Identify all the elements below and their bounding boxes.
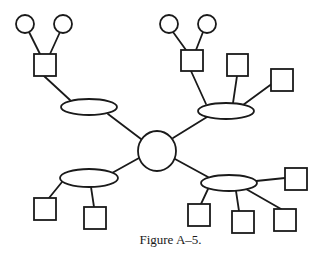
edge-hub-bottom-left-ellipse (112, 158, 139, 173)
tr-circle-2 (198, 15, 216, 33)
br-square-1 (188, 204, 210, 226)
edge-top-right-ellipse-tr-square-3 (243, 83, 273, 105)
edge-top-right-ellipse-tr-square-2 (233, 76, 237, 103)
edge-hub-bottom-right-ellipse (175, 159, 208, 177)
br-square-2 (232, 211, 254, 233)
tr-square-1 (181, 50, 203, 71)
edge-bottom-right-ellipse-br-square-4 (256, 178, 285, 181)
tl-circle-1 (16, 15, 34, 33)
edge-tr-square-1-tr-circle-1 (173, 32, 186, 50)
tr-circle-1 (160, 15, 178, 33)
bl-square-1 (34, 198, 56, 220)
edge-bottom-right-ellipse-br-square-1 (201, 189, 208, 204)
edge-tl-square-tl-circle-1 (29, 32, 40, 54)
tl-circle-2 (54, 15, 72, 33)
edge-bottom-right-ellipse-br-square-2 (236, 191, 239, 211)
hub-node (138, 131, 176, 171)
edge-tr-square-1-tr-circle-2 (196, 32, 203, 50)
br-square-3 (274, 209, 296, 231)
edge-tl-square-tl-circle-2 (50, 32, 60, 54)
tl-square (34, 54, 56, 76)
top-right-ellipse (198, 103, 254, 119)
edge-hub-top-left-ellipse (108, 114, 141, 139)
edge-top-right-ellipse-tr-square-1 (191, 71, 206, 104)
figure-caption: Figure A–5. (0, 232, 327, 248)
top-left-ellipse (61, 99, 117, 115)
bottom-right-ellipse (201, 175, 257, 191)
tr-square-3 (271, 69, 293, 91)
tr-square-2 (227, 54, 248, 76)
nodes (16, 15, 307, 233)
edge-bottom-right-ellipse-br-square-3 (246, 189, 281, 209)
edge-top-left-ellipse-tl-square (44, 76, 70, 100)
edge-bottom-left-ellipse-bl-square-1 (49, 182, 62, 198)
network-diagram (0, 0, 327, 259)
edge-hub-top-right-ellipse (173, 117, 207, 138)
edge-bottom-left-ellipse-bl-square-2 (91, 187, 94, 207)
bottom-left-ellipse (60, 169, 118, 187)
br-square-4 (285, 168, 307, 190)
bl-square-2 (84, 207, 106, 229)
